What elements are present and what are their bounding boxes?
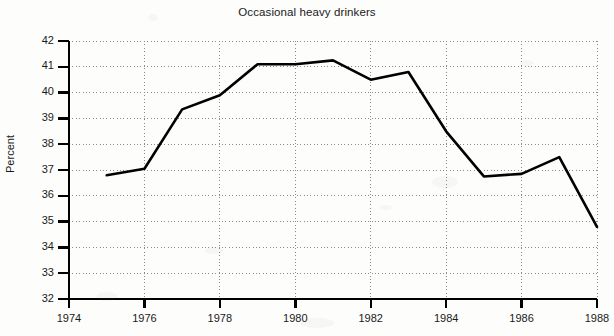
- chart-container: Occasional heavy drinkers Percent 323334…: [0, 0, 614, 336]
- data-series-line: [107, 60, 597, 226]
- x-axis-ticks: [69, 299, 597, 308]
- plot-area: [0, 0, 614, 336]
- y-axis-ticks: [58, 67, 69, 299]
- horizontal-gridlines: [69, 41, 597, 273]
